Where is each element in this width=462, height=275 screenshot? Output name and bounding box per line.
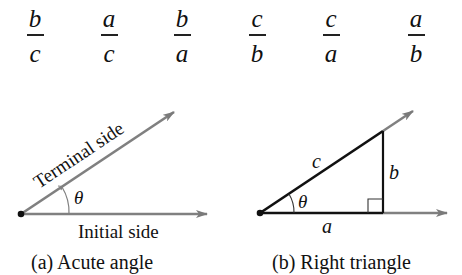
hypotenuse <box>260 131 383 213</box>
vertex-dot <box>257 210 264 217</box>
opposite-label-b: b <box>389 161 399 183</box>
terminal-side-label: Terminal side <box>30 117 128 192</box>
caption-b: (b) Right triangle <box>272 251 411 274</box>
theta-label: θ <box>74 187 83 208</box>
vertex-dot <box>18 211 25 218</box>
theta-label: θ <box>298 191 307 212</box>
terminal-side-ray <box>21 112 174 214</box>
figure-right-triangle: θ c b a (b) Right triangle <box>257 111 447 274</box>
adjacent-label-a: a <box>322 215 332 237</box>
caption-a: (a) Acute angle <box>31 251 153 274</box>
terminal-side-ray <box>383 111 413 131</box>
figure-acute-angle: θ Terminal side Initial side (a) Acute a… <box>18 112 207 274</box>
angle-arc <box>289 194 294 213</box>
figures: θ Terminal side Initial side (a) Acute a… <box>0 0 462 275</box>
right-angle-marker <box>368 199 383 213</box>
initial-side-label: Initial side <box>78 221 159 242</box>
angle-arc <box>62 187 69 214</box>
hypotenuse-label-c: c <box>312 150 321 172</box>
